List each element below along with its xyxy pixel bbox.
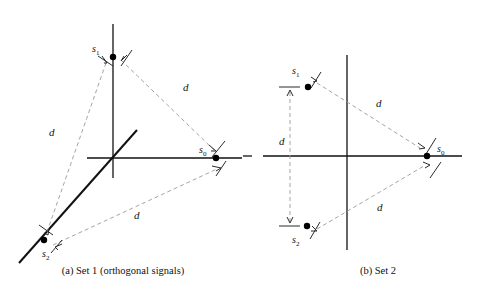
figure-container: s1 s0 s2 d d d (a) Set 1 (orthogonal sig… <box>0 0 493 303</box>
panel-a-label-s1: s1 <box>92 43 100 57</box>
panel-b: s1 s0 s2 d d d (b) Set 2 <box>243 55 462 277</box>
panel-a-distance-label-left: d <box>49 126 55 138</box>
panel-a-distance-label-right: d <box>183 81 189 93</box>
panel-a-point-s1 <box>110 54 116 60</box>
panel-a-caption: (a) Set 1 (orthogonal signals) <box>62 265 185 277</box>
panel-b-distance-line-s2-s0 <box>317 166 424 229</box>
panel-a-diagonal-axis <box>19 130 137 263</box>
panel-b-point-s1 <box>305 84 311 90</box>
signal-constellation-figure: s1 s0 s2 d d d (a) Set 1 (orthogonal sig… <box>0 0 493 303</box>
panel-a-distance-line-s1-s2 <box>47 63 106 232</box>
panel-a-label-s2: s2 <box>42 248 50 262</box>
panel-b-distance-label-left: d <box>279 135 285 147</box>
panel-a-point-s0 <box>213 155 219 161</box>
panel-b-distance-label-upper: d <box>376 97 382 109</box>
panel-b-tick-s1-s0-right <box>418 138 436 154</box>
panel-a-distance-label-bottom: d <box>134 209 140 221</box>
panel-b-tick-s1-s2-top <box>279 87 300 96</box>
panel-a-tick-s2-s0-left <box>51 240 62 253</box>
panel-b-label-s1: s1 <box>292 65 300 79</box>
panel-a-distance-line-s2-s0 <box>53 169 217 245</box>
panel-a: s1 s0 s2 d d d (a) Set 1 (orthogonal sig… <box>19 24 242 277</box>
panel-b-point-s2 <box>304 223 310 229</box>
panel-b-label-s2: s2 <box>292 234 300 248</box>
panel-b-tick-s2-s0-left <box>310 222 320 239</box>
panel-a-tick-s2-s0-right <box>212 161 226 176</box>
panel-b-caption: (b) Set 2 <box>360 265 396 277</box>
panel-a-tick-s1-s0-right <box>209 141 225 157</box>
panel-b-tick-s1-s2-bottom <box>279 217 300 226</box>
panel-a-label-s0: s0 <box>199 144 207 158</box>
panel-a-distance-line-s1-s0 <box>121 60 214 150</box>
panel-b-label-s0: s0 <box>437 143 445 157</box>
panel-b-distance-label-lower: d <box>377 201 383 213</box>
panel-a-point-s2 <box>41 237 47 243</box>
panel-b-point-s0 <box>424 153 430 159</box>
panel-b-distance-line-s1-s0 <box>317 83 420 148</box>
panel-b-tick-s2-s0-right <box>423 162 441 178</box>
panel-a-tick-s1-s0-left <box>121 50 132 66</box>
panel-b-tick-s1-s0-left <box>311 72 321 88</box>
